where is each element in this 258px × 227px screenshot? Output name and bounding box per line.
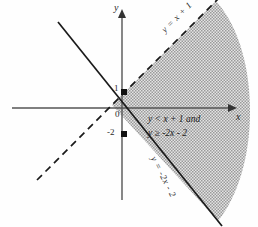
region-inequality-line-2: y ≥ -2x - 2 [148, 127, 200, 141]
tick-label-y-neg-two: -2 [107, 128, 115, 137]
inequality-region-graph: y x 1 0 -2 y = x + 1 y = -2x - 2 y < x +… [0, 0, 258, 227]
y-axis-arrow [118, 9, 126, 18]
tick-label-y-one: 1 [114, 84, 119, 93]
point-y-intercept-neg-two [121, 131, 127, 137]
x-axis-label: x [236, 112, 240, 122]
region-inequality-label: y < x + 1 and y ≥ -2x - 2 [148, 113, 200, 141]
y-axis-label: y [114, 3, 118, 13]
point-y-intercept-one [121, 89, 127, 95]
graph-canvas [0, 0, 258, 227]
origin-label: 0 [115, 110, 120, 119]
region-inequality-line-1: y < x + 1 and [148, 113, 200, 127]
